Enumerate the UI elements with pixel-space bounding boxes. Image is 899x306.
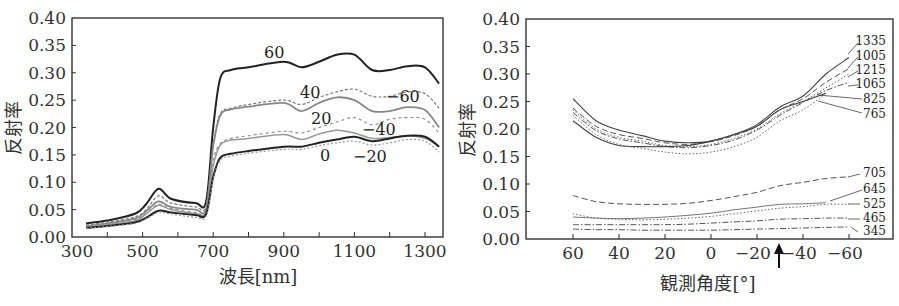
- left-chart-curves: [86, 53, 439, 228]
- right-chart-curves: [573, 58, 849, 231]
- x-tick-label: 20: [654, 243, 676, 263]
- curve-wavelength-645: [573, 203, 826, 219]
- curve-wavelength-705: [573, 177, 849, 205]
- curve-wavelength-765: [573, 93, 826, 154]
- right-y-axis-ticks: 0.000.050.100.150.200.250.300.350.40: [482, 9, 530, 249]
- x-tick-label: 0: [706, 243, 717, 263]
- y-tick-label: 0.15: [482, 147, 520, 167]
- left-y-axis-title: 反射率: [3, 101, 24, 155]
- x-tick-label: −20: [735, 243, 771, 263]
- curve-label-1335: 1335: [855, 34, 886, 48]
- curve-wavelength-345: [573, 227, 849, 230]
- x-tick-label: 60: [562, 243, 584, 263]
- curve-label-645: 645: [863, 182, 886, 196]
- figure-canvas: 0.000.050.100.150.200.250.300.350.40 300…: [0, 0, 899, 306]
- curve-label-525: 525: [863, 197, 886, 211]
- curve-label-465: 465: [863, 211, 886, 225]
- curve-label-345: 345: [863, 224, 886, 238]
- y-tick-label: 0.30: [28, 63, 66, 83]
- y-tick-label: 0.15: [28, 145, 66, 165]
- x-tick-label: 300: [61, 241, 93, 261]
- y-tick-label: 0.25: [28, 90, 66, 110]
- x-tick-label: 500: [126, 241, 158, 261]
- leader-line: [830, 190, 862, 201]
- left-label-neg40: −40: [362, 120, 396, 139]
- leader-line: [818, 101, 862, 113]
- y-tick-label: 0.10: [28, 172, 66, 192]
- y-tick-label: 0.20: [482, 119, 520, 139]
- x-tick-label: 1300: [403, 241, 446, 261]
- left-label-20: 20: [311, 109, 331, 128]
- leader-line: [818, 95, 862, 99]
- left-y-axis-ticks: 0.000.050.100.150.200.250.300.350.40: [28, 8, 76, 247]
- x-tick-label: −40: [781, 243, 817, 263]
- curve-label-1065: 1065: [855, 77, 886, 91]
- y-tick-label: 0.10: [482, 174, 520, 194]
- y-tick-label: 0.05: [482, 202, 520, 222]
- curve-label-825: 825: [863, 92, 886, 106]
- curve-label-765: 765: [863, 107, 886, 121]
- y-tick-label: 0.30: [482, 64, 520, 84]
- left-label-40: 40: [300, 83, 320, 102]
- y-tick-label: 0.05: [28, 200, 66, 220]
- leader-line: [851, 227, 858, 232]
- curve-wavelength-1215: [573, 74, 849, 147]
- y-tick-label: 0.25: [482, 92, 520, 112]
- x-tick-label: 1100: [333, 241, 376, 261]
- curve-wavelength-825: [573, 93, 826, 146]
- y-tick-label: 0.40: [28, 8, 66, 28]
- left-chart: 0.000.050.100.150.200.250.300.350.40 300…: [3, 8, 447, 287]
- x-tick-label: 700: [197, 241, 229, 261]
- y-tick-label: 0.35: [28, 35, 66, 55]
- left-label-0: 0: [320, 146, 330, 165]
- x-tick-label: −60: [827, 243, 863, 263]
- right-curve-labels: 1335100512151065825765705645525465345: [818, 34, 886, 238]
- y-tick-label: 0.40: [482, 9, 520, 29]
- left-label-neg60: −60: [386, 87, 420, 106]
- curve-label-1215: 1215: [855, 63, 886, 77]
- y-tick-label: 0.20: [28, 118, 66, 138]
- x-tick-label: 900: [268, 241, 300, 261]
- curve-label-705: 705: [863, 166, 886, 180]
- x-tick-label: 40: [608, 243, 630, 263]
- left-label-60: 60: [264, 43, 284, 62]
- y-tick-label: 0.00: [482, 229, 520, 249]
- right-plot-frame: [526, 19, 893, 239]
- left-label-neg20: −20: [353, 147, 387, 166]
- curve-wavelength-525: [573, 204, 849, 220]
- left-x-axis-title: 波長[nm]: [219, 266, 298, 287]
- right-x-axis-title: 観測角度[°]: [660, 273, 755, 294]
- y-tick-label: 0.35: [482, 37, 520, 57]
- right-chart: 0.000.050.100.150.200.250.300.350.40 604…: [457, 9, 893, 294]
- curve-label-1005: 1005: [855, 49, 886, 63]
- right-y-axis-title: 反射率: [457, 103, 478, 157]
- leader-line: [848, 174, 860, 177]
